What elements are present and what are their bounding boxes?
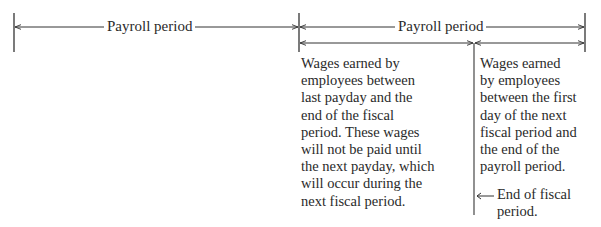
accrued-wages-description: Wages earned by employees between last p… (301, 55, 435, 210)
payroll-period-1-label: Payroll period (104, 18, 195, 35)
next-fiscal-wages-description: Wages earned by employees between the fi… (480, 55, 577, 175)
arrow-left-icon (476, 192, 495, 200)
end-of-fiscal-period-label: End of fiscal period. (497, 186, 571, 220)
payroll-period-2-label: Payroll period (395, 18, 486, 35)
end-of-fiscal-period-callout: End of fiscal period. (476, 186, 601, 222)
